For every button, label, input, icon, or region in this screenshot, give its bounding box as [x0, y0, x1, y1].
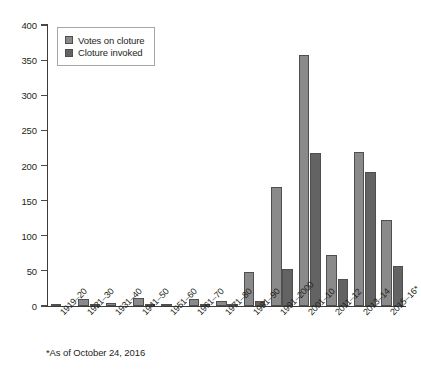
y-axis-tick [41, 200, 47, 201]
y-axis-tick [41, 305, 47, 306]
bar-invoked [365, 172, 376, 306]
y-axis-tick [41, 235, 47, 236]
chart-footnote: *As of October 24, 2016 [46, 347, 145, 358]
plot-area [48, 25, 406, 306]
y-axis-tick [41, 60, 47, 61]
y-axis-tick [41, 95, 47, 96]
legend-item-cloture-invoked: Cloture invoked [65, 47, 145, 58]
legend-label-invoked: Cloture invoked [78, 47, 143, 58]
bar-votes [299, 55, 310, 306]
y-axis-tick-label: 100 [21, 230, 37, 241]
bar-votes [216, 301, 227, 306]
y-axis-tick-label: 350 [21, 55, 37, 66]
y-axis-tick-label: 150 [21, 195, 37, 206]
bar-votes [51, 304, 62, 306]
chart-legend: Votes on cloture Cloture invoked [57, 27, 155, 66]
bar-votes [354, 152, 365, 306]
y-axis-tick [41, 165, 47, 166]
y-axis-tick-label: 300 [21, 90, 37, 101]
bar-votes [161, 304, 172, 306]
y-axis-tick [41, 130, 47, 131]
legend-swatch-icon-votes [65, 36, 73, 44]
y-axis-tick-label: 50 [27, 265, 37, 276]
y-axis-tick-label: 250 [21, 125, 37, 136]
legend-swatch-icon-invoked [65, 49, 73, 57]
legend-label-votes: Votes on cloture [78, 35, 145, 46]
y-axis-tick-label: 200 [21, 160, 37, 171]
y-axis-tick-label: 400 [21, 20, 37, 31]
bar-votes [106, 303, 117, 306]
legend-item-votes-on-cloture: Votes on cloture [65, 35, 145, 46]
y-axis-tick [41, 270, 47, 271]
y-axis-tick-label: 0 [32, 301, 37, 312]
y-axis-tick [41, 24, 47, 25]
